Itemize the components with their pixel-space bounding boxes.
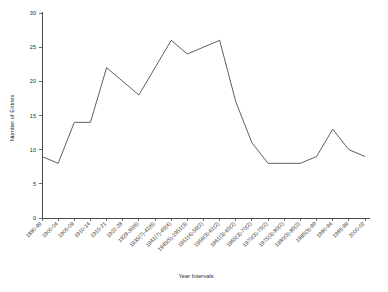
y-tick-label: 10 — [30, 147, 36, 153]
y-tick-label: 0 — [33, 215, 36, 221]
y-tick-label: 20 — [30, 78, 36, 84]
x-tick-label: 1910-14 — [73, 220, 91, 238]
x-tick-label: 1890-99 — [24, 220, 42, 238]
y-tick-label: 15 — [30, 113, 36, 119]
y-axis-title: Number of Entries — [9, 95, 15, 142]
data-series-line — [42, 40, 365, 163]
y-tick-label: 5 — [33, 181, 36, 187]
y-tick-label: 30 — [30, 10, 36, 16]
line-chart: 051015202530 1890-991900-041905-091910-1… — [0, 0, 388, 292]
x-axis-title: Year Intervals — [178, 273, 213, 279]
chart-figure: 051015202530 1890-991900-041905-091910-1… — [0, 0, 388, 292]
x-tick-label: 1900-04 — [41, 220, 59, 238]
y-tick-label: 25 — [30, 44, 36, 50]
x-tick-label: 1990-94 — [315, 220, 333, 238]
x-tick-label: 1995-99 — [331, 220, 349, 238]
x-tick-label: 1905-09 — [57, 220, 75, 238]
x-tick-label: 2000-02 — [347, 220, 365, 238]
y-axis-ticks: 051015202530 — [30, 10, 42, 221]
x-tick-label: 1915-21 — [89, 220, 107, 238]
x-axis-ticks: 1890-991900-041905-091910-141915-211922-… — [24, 218, 365, 252]
